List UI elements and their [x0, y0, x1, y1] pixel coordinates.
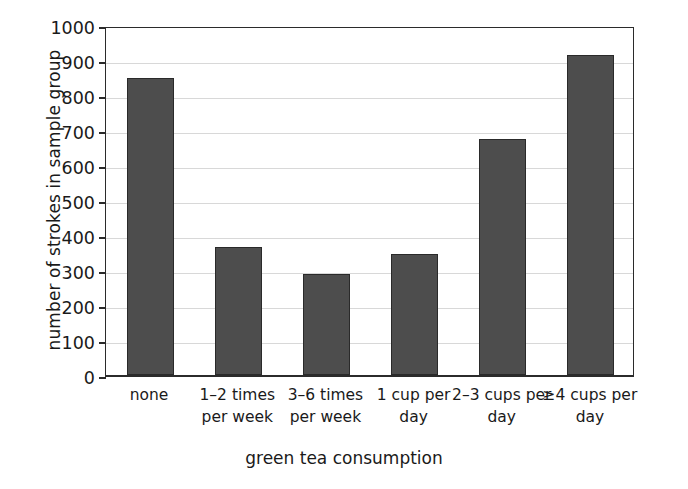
gridline [106, 133, 633, 134]
y-axis-tick-label: 100 [62, 333, 95, 353]
y-axis-tick-label: 500 [62, 193, 95, 213]
y-axis-tick [99, 167, 106, 169]
y-axis-tick-label: 200 [62, 298, 95, 318]
x-axis-tick-label: ≥4 cups perday [535, 384, 645, 428]
bar [479, 139, 526, 375]
bar [303, 274, 350, 376]
bar-chart-figure: number of strokes in sample group 010020… [0, 0, 688, 489]
y-axis-tick [99, 27, 106, 29]
x-axis-title: green tea consumption [0, 448, 688, 468]
gridline [106, 343, 633, 344]
y-axis-tick-label: 400 [62, 228, 95, 248]
gridline [106, 63, 633, 64]
plot-area: 01002003004005006007008009001000 [105, 27, 634, 377]
y-axis-tick [99, 307, 106, 309]
y-axis-tick [99, 237, 106, 239]
y-axis-tick [99, 342, 106, 344]
y-axis-tick-label: 1000 [50, 18, 95, 38]
y-axis-tick [99, 202, 106, 204]
y-axis-tick [99, 132, 106, 134]
y-axis-tick-label: 800 [62, 88, 95, 108]
y-axis-tick-label: 600 [62, 158, 95, 178]
bar [215, 247, 262, 375]
gridline [106, 203, 633, 204]
x-axis-tick-label-line: ≥4 cups per [535, 384, 645, 406]
x-axis-tick-label-line: day [535, 406, 645, 428]
y-axis-tick-label: 700 [62, 123, 95, 143]
gridline [106, 168, 633, 169]
gridline [106, 238, 633, 239]
bar [391, 254, 438, 375]
gridline [106, 273, 633, 274]
y-axis-tick [99, 377, 106, 379]
y-axis-tick [99, 62, 106, 64]
y-axis-tick-label: 900 [62, 53, 95, 73]
bar [567, 55, 614, 375]
y-axis-tick [99, 272, 106, 274]
bar [127, 78, 174, 376]
y-axis-tick-label: 300 [62, 263, 95, 283]
gridline [106, 98, 633, 99]
y-axis-tick [99, 97, 106, 99]
gridline [106, 308, 633, 309]
